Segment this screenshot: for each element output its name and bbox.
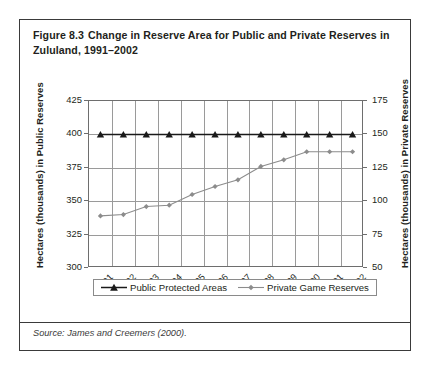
footer-divider <box>20 322 410 323</box>
y-axis-left-title: Hectares (thousands) in Public Reserves <box>34 82 45 268</box>
data-point-marker <box>144 204 149 209</box>
series-line-2 <box>100 152 352 216</box>
data-point-marker <box>281 157 286 162</box>
y-axis-left-tick-label: 400 <box>60 127 82 138</box>
chart-area: Hectares (thousands) in Public Reserves … <box>20 64 412 314</box>
chart-legend: Public Protected AreasPrivate Game Reser… <box>93 279 377 296</box>
series-lines <box>89 101 364 268</box>
data-point-marker <box>258 164 263 169</box>
y-axis-right-tick-label: 150 <box>372 127 388 138</box>
legend-item-1: Public Protected Areas <box>101 282 227 293</box>
y-axis-left-tick-label: 375 <box>60 161 82 172</box>
figure-title-text: Change in Reserve Area for Public and Pr… <box>33 29 390 56</box>
figure-container: Figure 8.3Change in Reserve Area for Pub… <box>19 19 411 351</box>
figure-title: Figure 8.3Change in Reserve Area for Pub… <box>33 28 395 57</box>
legend-triangle-icon <box>101 282 127 293</box>
data-point-marker <box>167 203 172 208</box>
data-point-marker <box>190 192 195 197</box>
data-point-marker <box>98 213 103 218</box>
data-point-marker <box>235 177 240 182</box>
y-axis-left-tick-label: 325 <box>60 228 82 239</box>
y-axis-right-tick-label: 175 <box>372 94 388 105</box>
y-axis-right-title: Hectares (thousands) in Private Reserves <box>399 79 410 268</box>
figure-number: Figure 8.3 <box>33 29 84 41</box>
plot-area <box>88 100 363 267</box>
legend-label: Private Game Reserves <box>267 282 369 293</box>
y-axis-right-tick-label: 100 <box>372 194 388 205</box>
y-axis-left-tick-label: 425 <box>60 94 82 105</box>
legend-diamond-icon <box>238 282 264 293</box>
y-axis-left-tick <box>84 267 88 268</box>
data-point-marker <box>121 212 126 217</box>
data-point-marker <box>327 149 332 154</box>
legend-label: Public Protected Areas <box>130 282 227 293</box>
y-axis-left-tick-label: 350 <box>60 194 82 205</box>
y-axis-right-tick-label: 50 <box>372 261 382 272</box>
source-note: Source: James and Creemers (2000). <box>33 328 187 338</box>
y-axis-left-tick-label: 300 <box>60 261 82 272</box>
y-axis-right-tick-label: 75 <box>372 228 382 239</box>
data-point-marker <box>304 149 309 154</box>
y-axis-right-tick-label: 125 <box>372 161 388 172</box>
legend-item-2: Private Game Reserves <box>238 282 369 293</box>
data-point-marker <box>350 149 355 154</box>
data-point-marker <box>212 184 217 189</box>
